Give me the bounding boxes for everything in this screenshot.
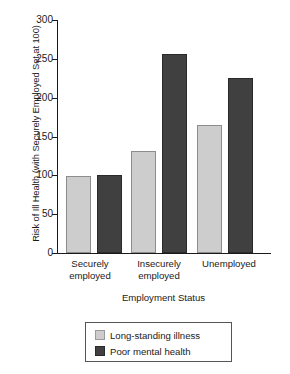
x-category-label-unemployed: Unemployed <box>186 258 272 270</box>
legend-item-poor-mental-health: Poor mental health <box>95 344 191 358</box>
bar-unemployed-long-standing-illness <box>197 125 222 253</box>
legend-item-long-standing-illness: Long-standing illness <box>95 328 200 342</box>
y-tick-label-150: 150 <box>36 130 53 143</box>
bar-insecurely-employed-long-standing-illness <box>131 151 156 253</box>
x-axis-line <box>57 253 271 254</box>
y-tick-label-100: 100 <box>36 168 53 181</box>
legend-label: Poor mental health <box>110 346 191 357</box>
bar-unemployed-poor-mental-health <box>228 78 253 253</box>
x-axis-title: Employment Status <box>57 292 270 303</box>
y-tick-label-300: 300 <box>36 13 53 26</box>
legend: Long-standing illness Poor mental health <box>85 322 232 362</box>
plot-area: 0 50 100 150 200 250 300 <box>57 20 270 253</box>
legend-swatch-icon <box>95 330 105 340</box>
y-tick-label-50: 50 <box>42 207 53 220</box>
bar-insecurely-employed-poor-mental-health <box>162 54 187 253</box>
y-tick-label-200: 200 <box>36 91 53 104</box>
bars-layer <box>58 20 270 253</box>
bar-chart: Risk of Ill Health (with Securely Employ… <box>0 0 290 374</box>
x-category-line2: employed <box>118 270 200 282</box>
legend-swatch-icon <box>95 346 105 356</box>
bar-securely-employed-poor-mental-health <box>97 175 122 253</box>
y-tick-label-250: 250 <box>36 52 53 65</box>
legend-label: Long-standing illness <box>110 330 200 341</box>
x-category-line1: Unemployed <box>186 258 272 270</box>
bar-securely-employed-long-standing-illness <box>66 176 91 253</box>
